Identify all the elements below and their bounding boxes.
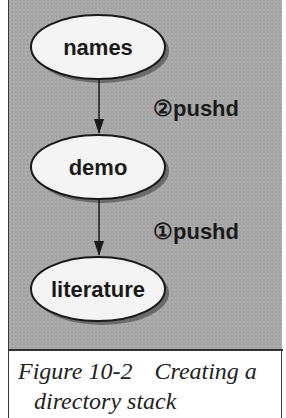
node-label-demo: demo [69,155,128,180]
caption-text-line1: Creating a [154,358,256,384]
edge-label-step-1: ①pushd [153,219,239,244]
caption-divider [8,349,283,351]
figure-number: Figure 10-2 [18,358,132,384]
caption-text-line2: directory stack [18,386,280,416]
node-demo: demo [31,135,169,203]
node-label-literature: literature [51,277,145,302]
directory-stack-diagram: names ②pushd demo ①pushd literature [0,0,286,350]
node-names: names [31,15,169,83]
figure-caption: Figure 10-2Creating a directory stack [18,356,280,416]
node-label-names: names [63,35,133,60]
edge-label-step-2: ②pushd [153,96,239,121]
arrowhead-icon [94,241,104,256]
arrowhead-icon [94,119,104,134]
node-literature: literature [31,257,169,325]
